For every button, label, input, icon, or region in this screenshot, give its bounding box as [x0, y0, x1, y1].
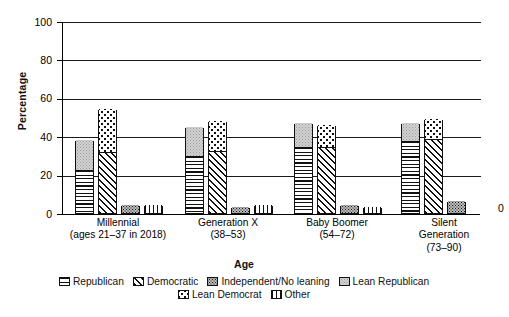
y-axis-tick-label: 80 — [18, 55, 52, 66]
bar-independent — [447, 202, 466, 214]
bar-democratic — [425, 140, 442, 213]
bar-independent — [341, 205, 358, 213]
legend-item-label: Lean Republican — [353, 276, 429, 287]
y-axis-tick-label: 60 — [18, 93, 52, 104]
bar-lean-democrat — [99, 109, 116, 153]
gridline — [63, 60, 481, 61]
legend-item: Democratic — [133, 276, 199, 287]
legend-row-primary: RepublicanDemocraticIndependent/No leani… — [0, 276, 488, 287]
bar-democratic — [209, 152, 226, 213]
x-axis-group-label-line-1: Silent — [374, 217, 509, 229]
zero-value-label: 0 — [498, 202, 504, 214]
bar-democratic-stack — [98, 110, 117, 214]
bar-independent — [448, 201, 465, 213]
legend-item-label: Lean Democrat — [192, 289, 262, 300]
swatch-other — [271, 290, 282, 299]
bar-other — [145, 205, 162, 213]
legend-item-label: Independent/No leaning — [221, 276, 329, 287]
legend-item-label: Republican — [73, 276, 124, 287]
bar-democratic-stack — [317, 126, 336, 214]
bar-independent — [340, 206, 359, 214]
bar-independent — [232, 207, 249, 213]
swatch-republican — [59, 277, 70, 286]
bar-lean-democrat — [209, 121, 226, 152]
bar-other — [254, 206, 273, 214]
y-axis-tick-label: 0 — [18, 209, 52, 220]
bar-republican — [402, 142, 419, 213]
bar-lean-republican — [295, 123, 312, 148]
bar-lean-republican — [186, 127, 203, 158]
y-axis-tick-label: 40 — [18, 132, 52, 143]
bar-other — [144, 206, 163, 214]
legend-item: Other — [271, 289, 310, 300]
bar-democratic — [318, 148, 335, 213]
x-axis-line — [62, 214, 480, 215]
bar-other — [364, 207, 381, 213]
bar-lean-republican — [76, 140, 93, 171]
legend-item: Independent/No leaning — [207, 276, 329, 287]
bar-republican-stack — [294, 124, 313, 214]
bar-independent — [121, 206, 140, 214]
bar-democratic-stack — [424, 120, 443, 214]
bar-lean-democrat — [318, 125, 335, 148]
plot-area: 0 — [62, 22, 480, 214]
legend-row-secondary: Lean DemocratOther — [0, 289, 488, 300]
gridline — [63, 99, 481, 100]
bar-democratic-stack — [208, 122, 227, 214]
bar-republican-stack — [185, 128, 204, 214]
bar-democratic — [99, 153, 116, 213]
bar-republican-stack — [401, 124, 420, 214]
gridline — [63, 22, 481, 23]
y-axis-tick-label: 100 — [18, 17, 52, 28]
bar-independent — [122, 205, 139, 213]
bar-lean-democrat — [425, 119, 442, 140]
bar-republican — [186, 157, 203, 213]
bar-lean-republican — [402, 123, 419, 142]
legend-item-label: Other — [285, 289, 310, 300]
legend: RepublicanDemocraticIndependent/No leani… — [0, 276, 488, 302]
legend-item-label: Democratic — [147, 276, 199, 287]
swatch-lean-republican — [339, 277, 350, 286]
x-axis-group-label-line-3: (73–90) — [374, 242, 509, 254]
x-axis-group-label-line-2: Generation — [374, 229, 509, 241]
x-axis-group-label: SilentGeneration(73–90) — [374, 217, 509, 254]
bar-republican — [76, 171, 93, 213]
swatch-independent — [207, 277, 218, 286]
swatch-democratic — [133, 277, 144, 286]
bar-other — [255, 205, 272, 213]
legend-item: Lean Republican — [339, 276, 429, 287]
bar-republican — [295, 148, 312, 213]
bar-republican-stack — [75, 141, 94, 214]
y-axis-tick-label: 20 — [18, 170, 52, 181]
legend-item: Republican — [59, 276, 124, 287]
swatch-lean-democrat — [178, 290, 189, 299]
legend-item: Lean Democrat — [178, 289, 262, 300]
x-axis-title: Age — [0, 258, 488, 270]
